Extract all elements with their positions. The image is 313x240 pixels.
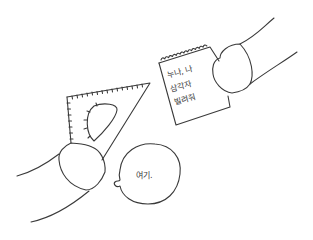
speech-bubble: 여기. — [114, 144, 180, 204]
illustration-canvas: 누나, 나 삼각자 빌려줘 여기. — [0, 0, 313, 240]
speech-bubble-text: 여기. — [136, 170, 153, 180]
left-hand — [17, 143, 105, 222]
note-line-3: 빌려줘 — [173, 92, 196, 107]
note-line-1: 누나, 나 — [166, 64, 194, 80]
note-paper: 누나, 나 삼각자 빌려줘 — [159, 45, 230, 125]
note-line-2: 삼각자 — [169, 79, 193, 94]
right-hand — [213, 18, 297, 93]
triangle-ruler — [67, 83, 150, 160]
